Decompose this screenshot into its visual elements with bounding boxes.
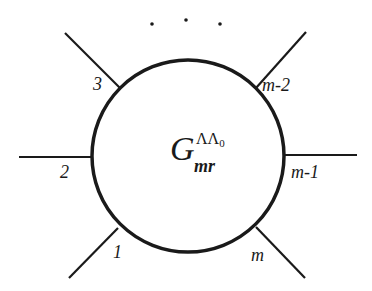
leg-label-3: 3 [93,75,102,93]
ellipsis-dot [184,18,188,22]
ellipsis-dot [218,22,222,26]
leg-label-1: 1 [113,243,122,261]
vertex-symbol-base: G [170,130,195,167]
leg-label-2: 2 [60,163,69,181]
vertex-symbol-subscript: mr [194,156,215,177]
superscript-lambdas: ΛΛ [196,130,219,147]
vertex-function-label: G ΛΛ0 mr [170,132,195,166]
leg-label-m-2: m-2 [262,76,290,94]
leg-label-m-1: m-1 [291,163,319,181]
ellipsis-dot [150,22,154,26]
leg-label-m: m [251,246,264,264]
vertex-symbol-superscript: ΛΛ0 [196,130,225,149]
leg-line-1 [69,228,118,278]
superscript-index: 0 [219,137,225,149]
